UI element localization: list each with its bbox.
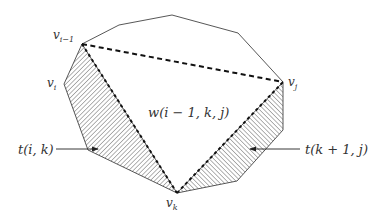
label-v-im1: vi−1 <box>53 28 74 44</box>
label-t-k1-j: t(k + 1, j) <box>305 142 368 157</box>
polygon-upper-edge <box>82 15 283 82</box>
polygon-diagram: vi−1 vi vj vk w(i − 1, k, j) t(i, k) t(k… <box>0 0 377 222</box>
label-v-i: vi <box>47 76 57 92</box>
label-v-k: vk <box>166 196 178 212</box>
label-w: w(i − 1, k, j) <box>148 105 229 120</box>
label-t-i-k: t(i, k) <box>18 142 54 157</box>
label-v-j: vj <box>288 75 298 91</box>
